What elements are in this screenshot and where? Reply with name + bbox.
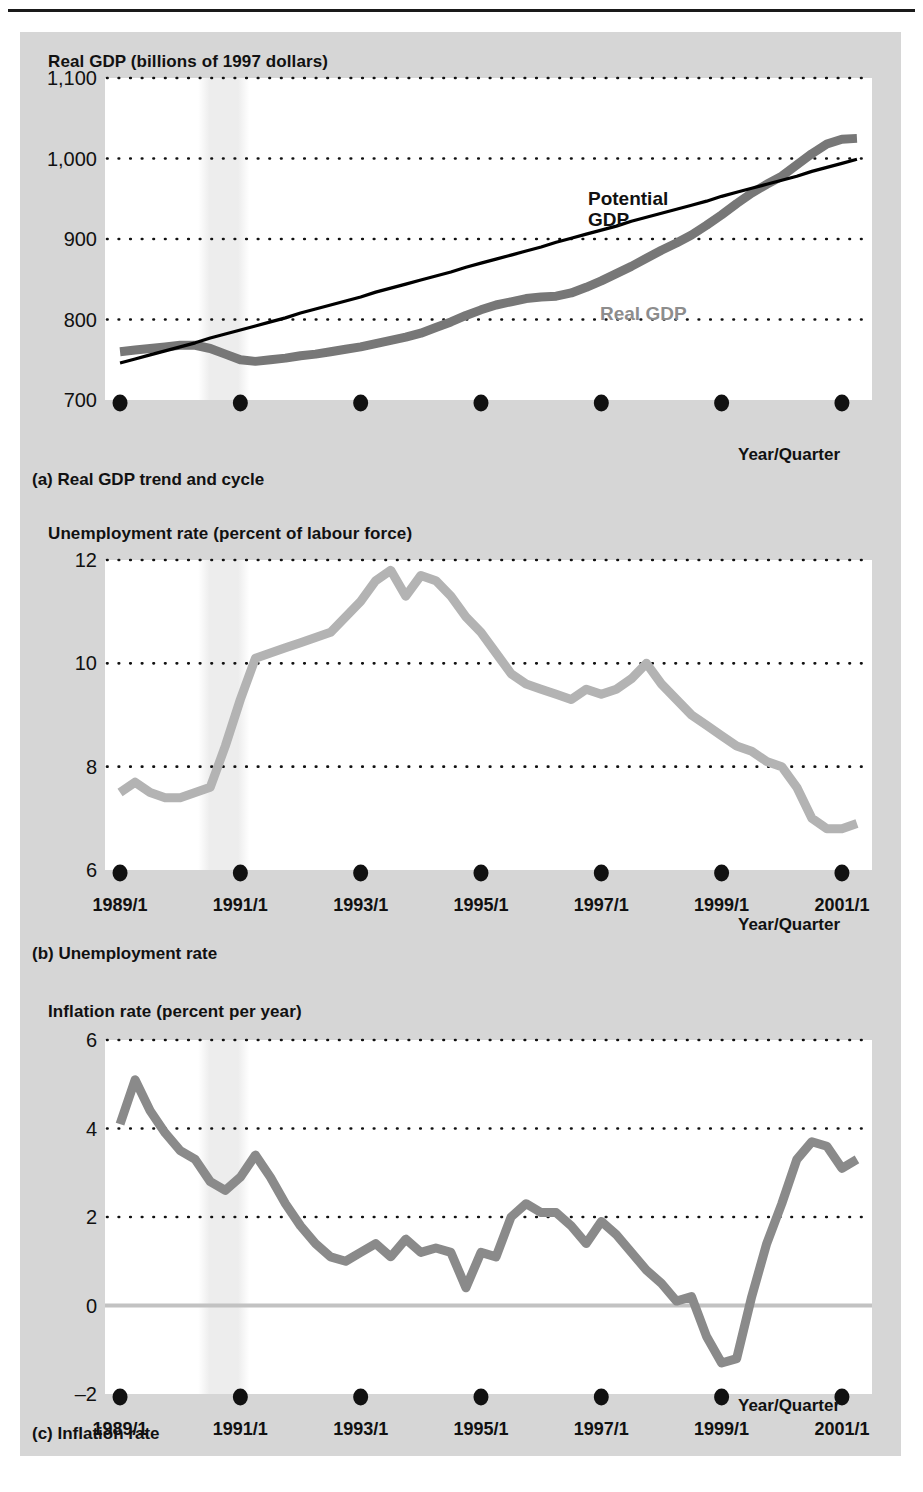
potential-line-2: GDP xyxy=(588,209,629,230)
x-tick-marker xyxy=(353,395,368,412)
chart-c-axis-title: Inflation rate (percent per year) xyxy=(48,1002,302,1022)
potential-line-1: Potential xyxy=(588,188,668,209)
x-tick-marker xyxy=(113,395,128,412)
chart-a-caption: (a) Real GDP trend and cycle xyxy=(32,470,264,490)
x-tick-marker xyxy=(233,395,248,412)
x-tick-marker xyxy=(834,395,849,412)
y-tick-label: 1,000 xyxy=(47,148,97,170)
x-tick-marker xyxy=(594,395,609,412)
y-tick-label: 800 xyxy=(64,309,97,331)
x-tick-marker xyxy=(473,395,488,412)
chart-b-axis-title: Unemployment rate (percent of labour for… xyxy=(48,524,412,544)
chart-b-xaxis-label: Year/Quarter xyxy=(738,915,840,935)
chart-a-xaxis-label: Year/Quarter xyxy=(738,445,840,465)
chart-c-xaxis-label: Year/Quarter xyxy=(738,1396,840,1416)
chart-a-potential-gdp-label: PotentialGDP xyxy=(588,188,668,231)
chart-b-caption: (b) Unemployment rate xyxy=(32,944,217,964)
y-tick-label: 1,100 xyxy=(47,67,97,89)
y-tick-label: 900 xyxy=(64,228,97,250)
x-tick-marker xyxy=(714,395,729,412)
chart-c-caption: (c) Inflation rate xyxy=(32,1424,160,1444)
y-tick-label: 700 xyxy=(64,389,97,411)
figure-root: Real GDP (billions of 1997 dollars) 7008… xyxy=(0,0,923,1492)
chart-a-canvas: 7008009001,0001,1001989/11991/11993/1199… xyxy=(0,0,923,420)
chart-a-real-gdp-label: Real GDP xyxy=(600,303,687,324)
